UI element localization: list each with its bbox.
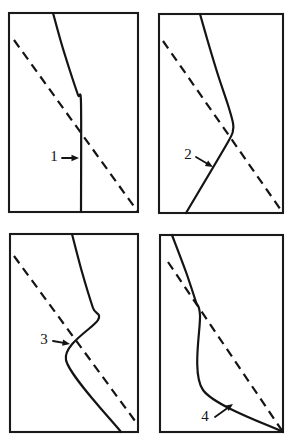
- four-panel-line-diagram: 1 2 3: [0, 0, 290, 444]
- panel-2: 2: [159, 14, 283, 213]
- panel-1: 1: [9, 13, 138, 212]
- panel-1-frame: [9, 13, 138, 212]
- panel-4-frame: [160, 235, 283, 432]
- panel-2-label: 2: [184, 146, 192, 162]
- panel-3-label: 3: [40, 331, 48, 347]
- panel-4-label: 4: [201, 408, 209, 424]
- figure-root: 1 2 3: [0, 0, 290, 444]
- panel-2-frame: [159, 14, 283, 213]
- panel-3: 3: [10, 234, 138, 432]
- panel-1-label: 1: [50, 148, 58, 164]
- panel-4: 4: [160, 235, 283, 432]
- panel-3-frame: [10, 234, 138, 432]
